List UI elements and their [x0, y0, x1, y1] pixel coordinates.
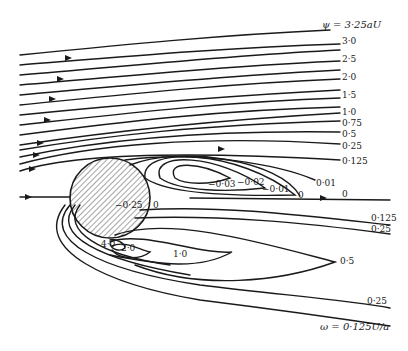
label-0-125: 0·125 [342, 157, 368, 166]
vorticity-0-25-upper [135, 217, 390, 234]
arrow-icon [37, 140, 44, 146]
label-vorticity-1-0: 1·0 [173, 250, 187, 259]
streamline-1-5 [20, 98, 340, 125]
label-vorticity-2-0: 2·0 [121, 244, 135, 253]
streamline-3-25 [20, 30, 330, 55]
label-vorticity-4-0: 4·0 [101, 240, 115, 249]
label-0-5: 0·5 [342, 130, 356, 139]
arrow-icon [65, 55, 72, 61]
arrow-icon [218, 146, 225, 152]
vorticity-0-5 [115, 228, 335, 280]
label-vorticity-0-25-lower: 0·25 [367, 297, 387, 306]
label-omega-bottom: ω = 0·125U/a [320, 322, 389, 332]
label-0-inner: 0 [298, 191, 304, 200]
label-psi-top: ψ = 3·25aU [322, 20, 381, 30]
label-2-5: 2·5 [342, 55, 356, 64]
label-minus-0-01: −0·01 [262, 185, 290, 194]
flow-past-cylinder-figure: ψ = 3·25aU 3·0 2·5 2·0 1·5 1·0 0·75 0·5 … [0, 0, 408, 351]
label-minus-0-02: −0·02 [237, 178, 265, 187]
label-0: 0 [342, 190, 348, 199]
label-0-01-outer: 0·01 [316, 179, 336, 188]
label-vorticity-0-near: 0 [153, 201, 159, 210]
arrow-icon [320, 195, 327, 201]
label-cylinder-minus-0-25: −0·25 [115, 201, 143, 210]
streamline-1-5b [20, 107, 340, 135]
streamline-2-0b [20, 90, 340, 115]
streamline-2-5b [20, 70, 340, 95]
label-1-0: 1·0 [342, 108, 356, 117]
label-0-25: 0·25 [342, 142, 362, 151]
cylinder [70, 158, 150, 238]
label-vorticity-0-25-upper: 0·25 [371, 225, 391, 234]
label-3-0: 3·0 [342, 37, 356, 46]
arrow-icon [25, 194, 32, 200]
label-1-5: 1·5 [342, 91, 356, 100]
label-vorticity-0-125: 0·125 [371, 214, 397, 223]
label-2-0: 2·0 [342, 73, 356, 82]
streamline-diagram [0, 0, 408, 351]
label-minus-0-03: −0·03 [208, 180, 236, 189]
label-0-75: 0·75 [342, 119, 362, 128]
label-vorticity-0-5: 0·5 [340, 257, 354, 266]
